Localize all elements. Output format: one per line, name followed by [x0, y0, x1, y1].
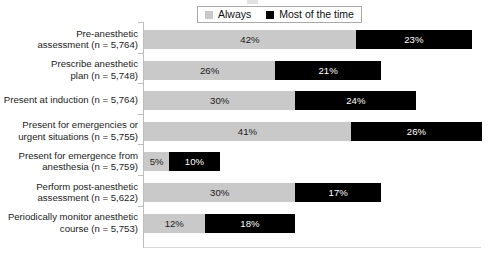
stacked-bar: 12%18% — [144, 214, 295, 233]
category-label-line: course (n = 5,753) — [0, 223, 138, 235]
bar-value-label: 26% — [407, 126, 426, 137]
bar-segment-most-of-the-time: 26% — [351, 122, 482, 141]
category-label-line: urgent situations (n = 5,755) — [0, 131, 138, 143]
category-label: Prescribe anestheticplan (n = 5,748) — [0, 58, 138, 81]
axis-tick — [138, 144, 143, 145]
bar-segment-most-of-the-time: 24% — [295, 91, 416, 110]
bar-row: Present at induction (n = 5,764)30%24% — [0, 86, 501, 116]
stacked-bar: 30%17% — [144, 183, 381, 202]
category-label-line: Present for emergence from — [0, 150, 138, 162]
cropped-title-remnant — [247, 0, 258, 4]
bar-segment-most-of-the-time: 17% — [295, 183, 381, 202]
bar-row: Periodically monitor anestheticcourse (n… — [0, 209, 501, 239]
category-label-line: anesthesia (n = 5,759) — [0, 161, 138, 173]
chart-baseline — [143, 247, 481, 248]
category-label: Periodically monitor anestheticcourse (n… — [0, 211, 138, 234]
bar-value-label: 10% — [185, 156, 204, 167]
bar-value-label: 30% — [210, 95, 229, 106]
bar-value-label: 18% — [240, 218, 259, 229]
bar-value-label: 23% — [404, 34, 423, 45]
bar-segment-most-of-the-time: 21% — [275, 61, 381, 80]
category-label: Present for emergencies orurgent situati… — [0, 119, 138, 142]
bar-value-label: 24% — [346, 95, 365, 106]
bar-segment-most-of-the-time: 10% — [169, 152, 219, 171]
category-label-line: Prescribe anesthetic — [0, 58, 138, 70]
axis-tick — [138, 22, 143, 23]
chart-legend: Always Most of the time — [197, 6, 362, 23]
legend-entry-always: Always — [205, 9, 251, 20]
bar-value-label: 17% — [329, 187, 348, 198]
stacked-bar-chart: Always Most of the time Pre-anestheticas… — [0, 0, 501, 256]
bar-value-label: 41% — [238, 126, 257, 137]
axis-tick — [138, 175, 143, 176]
bar-value-label: 21% — [319, 65, 338, 76]
category-label: Perform post-anestheticassessment (n = 5… — [0, 181, 138, 204]
category-label-line: assessment (n = 5,622) — [0, 192, 138, 204]
legend-label-most-of-the-time: Most of the time — [279, 9, 354, 20]
bar-segment-always: 26% — [144, 61, 275, 80]
bar-segment-always: 12% — [144, 214, 205, 233]
bar-segment-always: 42% — [144, 30, 356, 49]
axis-tick — [138, 114, 143, 115]
bar-row: Perform post-anestheticassessment (n = 5… — [0, 178, 501, 208]
category-label-line: Present at induction (n = 5,764) — [0, 94, 138, 106]
bar-value-label: 12% — [165, 218, 184, 229]
bar-segment-always: 30% — [144, 91, 295, 110]
bar-segment-most-of-the-time: 18% — [205, 214, 296, 233]
bar-segment-always: 41% — [144, 122, 351, 141]
bar-row: Present for emergencies orurgent situati… — [0, 117, 501, 147]
category-label-line: Present for emergencies or — [0, 119, 138, 131]
category-label-line: plan (n = 5,748) — [0, 70, 138, 82]
bar-value-label: 42% — [240, 34, 259, 45]
bar-segment-always: 5% — [144, 152, 169, 171]
stacked-bar: 42%23% — [144, 30, 472, 49]
category-label-line: Perform post-anesthetic — [0, 181, 138, 193]
legend-label-always: Always — [218, 9, 251, 20]
stacked-bar: 5%10% — [144, 152, 220, 171]
axis-tick — [138, 206, 143, 207]
bar-segment-most-of-the-time: 23% — [356, 30, 472, 49]
axis-tick — [138, 53, 143, 54]
legend-entry-most-of-the-time: Most of the time — [266, 9, 354, 20]
bar-row: Prescribe anestheticplan (n = 5,748)26%2… — [0, 56, 501, 86]
square-swatch-icon — [205, 11, 213, 19]
category-label: Pre-anestheticassessment (n = 5,764) — [0, 28, 138, 51]
stacked-bar: 41%26% — [144, 122, 482, 141]
bar-row: Present for emergence fromanesthesia (n … — [0, 147, 501, 177]
category-label-line: Periodically monitor anesthetic — [0, 211, 138, 223]
category-label-line: assessment (n = 5,764) — [0, 39, 138, 51]
category-axis-line — [143, 22, 144, 248]
category-label: Present at induction (n = 5,764) — [0, 94, 138, 106]
bar-value-label: 5% — [150, 156, 164, 167]
bar-segment-always: 30% — [144, 183, 295, 202]
axis-tick — [138, 83, 143, 84]
bar-value-label: 26% — [200, 65, 219, 76]
category-label-line: Pre-anesthetic — [0, 28, 138, 40]
category-label: Present for emergence fromanesthesia (n … — [0, 150, 138, 173]
square-swatch-icon — [266, 11, 274, 19]
bar-row: Pre-anestheticassessment (n = 5,764)42%2… — [0, 25, 501, 55]
stacked-bar: 30%24% — [144, 91, 416, 110]
bar-value-label: 30% — [210, 187, 229, 198]
stacked-bar: 26%21% — [144, 61, 381, 80]
